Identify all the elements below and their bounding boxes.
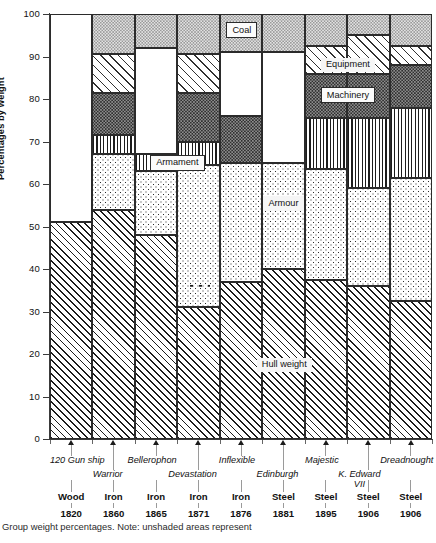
y-tick-label: 80	[0, 94, 40, 104]
hull-segment[interactable]	[92, 210, 134, 440]
plot-area	[50, 14, 432, 439]
machinery-label: Machinery	[321, 87, 375, 103]
unshaded-segment[interactable]	[220, 52, 262, 116]
armament-label: Armament	[150, 155, 204, 171]
ship-name-label: Dreadnought	[380, 455, 433, 465]
x-tick-mark	[220, 440, 221, 444]
machinery-segment[interactable]	[390, 65, 432, 108]
ship-name-label: 120 Gun ship	[50, 455, 105, 465]
label-leader-line	[113, 445, 114, 470]
x-tick-mark	[177, 440, 178, 444]
hull-segment[interactable]	[262, 269, 304, 439]
equipment-segment[interactable]	[390, 46, 432, 65]
hull-material-label: Iron	[147, 492, 165, 502]
stacked-column[interactable]	[305, 14, 347, 439]
x-axis-pointer	[238, 440, 244, 445]
hull-segment[interactable]	[177, 307, 219, 439]
stacked-column[interactable]	[220, 14, 262, 439]
ship-year-label: 1906	[400, 509, 421, 519]
hull-material-label: Steel	[399, 492, 422, 502]
ship-name-label: Majestic	[305, 455, 339, 465]
armament-segment[interactable]	[305, 118, 347, 169]
ship-name-label: Warrior	[93, 469, 123, 479]
stacked-column[interactable]	[50, 14, 92, 439]
ship-year-label: 1860	[103, 509, 124, 519]
hull-segment[interactable]	[390, 301, 432, 439]
ship-year-label: 1906	[358, 509, 379, 519]
chart-figure: Percentages by weight 100908070605040302…	[0, 0, 436, 543]
stacked-column[interactable]	[390, 14, 432, 439]
equipment-segment[interactable]	[92, 54, 134, 92]
coal-segment[interactable]	[262, 14, 304, 52]
armament-segment[interactable]	[347, 118, 389, 188]
x-tick-mark	[50, 440, 51, 444]
x-tick-mark	[305, 440, 306, 444]
armour-segment[interactable]	[262, 163, 304, 269]
stacked-column[interactable]	[135, 14, 177, 439]
ship-name-label: K. EdwardVII	[338, 469, 380, 489]
hull-material-label: Iron	[105, 492, 123, 502]
unshaded-segment[interactable]	[262, 52, 304, 163]
x-tick-mark	[92, 440, 93, 444]
hull-segment[interactable]	[50, 222, 92, 439]
figure-caption: Group weight percentages. Note: unshaded…	[2, 521, 432, 532]
ship-year-label: 1876	[230, 509, 251, 519]
unshaded-segment[interactable]	[135, 48, 177, 154]
x-axis-pointer	[365, 440, 371, 445]
hull-material-label: Iron	[232, 492, 250, 502]
stacked-column[interactable]	[347, 14, 389, 439]
hull-segment[interactable]	[347, 286, 389, 439]
x-axis-pointer	[408, 440, 414, 445]
y-tick-label: 100	[0, 9, 40, 19]
x-tick-mark	[347, 440, 348, 444]
armour-segment[interactable]	[220, 163, 262, 282]
ship-name-label: Inflexible	[219, 455, 255, 465]
armament-segment[interactable]	[92, 135, 134, 154]
armament-segment[interactable]	[390, 108, 432, 178]
y-tick-label: 50	[0, 222, 40, 232]
machinery-segment[interactable]	[177, 93, 219, 142]
hull-material-label: Steel	[272, 492, 295, 502]
x-tick-mark	[390, 440, 391, 444]
x-tick-mark	[135, 440, 136, 444]
armour-segment[interactable]	[347, 188, 389, 286]
coal-segment[interactable]	[92, 14, 134, 54]
armour-marker-dots	[187, 284, 210, 288]
y-tick-label: 60	[0, 179, 40, 189]
coal-segment[interactable]	[135, 14, 177, 48]
armour-segment[interactable]	[92, 154, 134, 209]
stacked-column[interactable]	[262, 14, 304, 439]
hull-material-label: Wood	[58, 492, 84, 502]
ship-year-label: 1865	[145, 509, 166, 519]
hull-segment[interactable]	[135, 235, 177, 439]
stacked-column[interactable]	[92, 14, 134, 439]
coal-segment[interactable]	[390, 14, 432, 46]
armour-segment[interactable]	[390, 178, 432, 301]
machinery-segment[interactable]	[220, 116, 262, 163]
armour-segment[interactable]	[135, 171, 177, 235]
armour-segment[interactable]	[177, 165, 219, 307]
ship-year-label: 1820	[61, 509, 82, 519]
unshaded-segment[interactable]	[50, 14, 92, 222]
machinery-segment[interactable]	[92, 93, 134, 136]
ship-name-label: Devastation	[168, 469, 217, 479]
y-tick-label: 10	[0, 392, 40, 402]
y-tick-label: 30	[0, 307, 40, 317]
x-axis-pointer	[280, 440, 286, 445]
coal-segment[interactable]	[347, 14, 389, 35]
equipment-segment[interactable]	[177, 54, 219, 92]
equipment-label: Equipment	[321, 58, 375, 72]
y-tick-label: 40	[0, 264, 40, 274]
x-tick-mark	[262, 440, 263, 444]
y-tick-label: 0	[0, 434, 40, 444]
y-tick-label: 90	[0, 52, 40, 62]
armour-segment[interactable]	[305, 169, 347, 280]
stacked-column[interactable]	[177, 14, 219, 439]
hull-label: Hull weight	[257, 358, 312, 372]
hull-material-label: Steel	[357, 492, 380, 502]
coal-segment[interactable]	[305, 14, 347, 46]
x-axis-pointer	[195, 440, 201, 445]
ship-year-label: 1895	[315, 509, 336, 519]
coal-segment[interactable]	[177, 14, 219, 54]
coal-label: Coal	[226, 22, 257, 38]
